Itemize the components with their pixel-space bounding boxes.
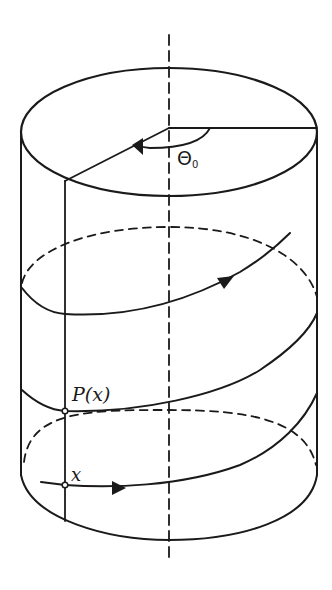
arrow-helix-lower-icon	[112, 481, 126, 495]
cylinder-helix-diagram	[0, 0, 332, 590]
helix-segment-lower	[41, 393, 317, 486]
point-x-marker	[62, 482, 68, 488]
theta-label: Θ0	[177, 149, 198, 170]
point-p-label: P(x)	[72, 385, 110, 404]
top-radius-front	[65, 128, 169, 181]
point-p-marker	[62, 408, 68, 414]
point-x-label: x	[71, 466, 81, 484]
hidden-ellipse-lower	[24, 410, 316, 465]
